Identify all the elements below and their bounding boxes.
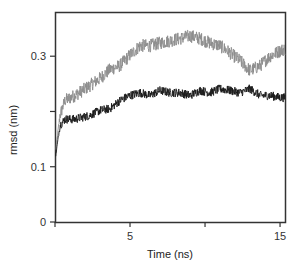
x-axis-label: Time (ns)	[147, 248, 193, 260]
plot-area	[56, 13, 286, 223]
x-tick-label: 5	[127, 230, 133, 242]
plot-frame	[56, 13, 286, 223]
y-tick-label: 0.1	[31, 161, 46, 173]
rmsd-chart: 515 00.10.3 Time (ns) rmsd (nm)	[0, 0, 299, 274]
x-tick-label: 15	[274, 230, 286, 242]
y-tick-label: 0	[40, 216, 46, 228]
x-axis-ticks: 515	[55, 222, 286, 242]
y-tick-label: 0.3	[31, 50, 46, 62]
y-axis-label: rmsd (nm)	[7, 105, 19, 155]
y-axis-ticks: 00.10.3	[31, 50, 55, 228]
